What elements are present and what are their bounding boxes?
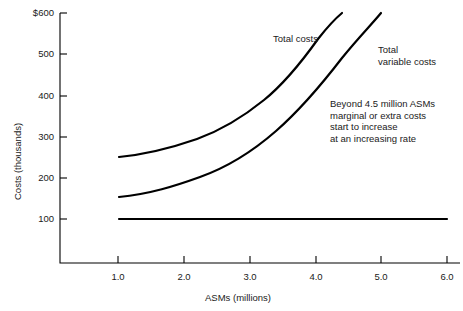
marginal-cost-note-line-1: Beyond 4.5 million ASMs	[330, 98, 435, 109]
marginal-cost-note: Beyond 4.5 million ASMs marginal or extr…	[330, 98, 435, 144]
series-label-total-variable-costs-line1: Total	[378, 44, 398, 55]
y-tick-label-600: $600	[12, 8, 54, 18]
x-tick-label-3: 3.0	[230, 272, 270, 282]
cost-behavior-chart: $600 500 400 300 200 100 1.0 2.0 3.0 4.0…	[0, 0, 463, 311]
y-tick-marks	[60, 13, 67, 219]
marginal-cost-note-line-3: start to increase	[330, 121, 398, 132]
x-tick-label-4: 4.0	[296, 272, 336, 282]
x-tick-label-5: 5.0	[361, 272, 401, 282]
y-tick-label-500: 500	[12, 49, 54, 59]
series-label-total-costs: Total costs	[273, 33, 318, 45]
series-label-total-variable-costs-line2: variable costs	[378, 56, 436, 67]
y-axis-title: Costs (thousands)	[12, 123, 23, 200]
y-tick-label-400: 400	[12, 91, 54, 101]
series-label-total-variable-costs: Total variable costs	[378, 44, 436, 67]
marginal-cost-note-line-2: marginal or extra costs	[330, 110, 426, 121]
x-tick-label-6: 6.0	[427, 272, 463, 282]
x-tick-label-1: 1.0	[98, 272, 138, 282]
x-tick-marks	[118, 256, 447, 263]
y-tick-label-100: 100	[12, 214, 54, 224]
x-tick-label-2: 2.0	[164, 272, 204, 282]
marginal-cost-note-line-4: at an increasing rate	[330, 133, 416, 144]
x-axis-title: ASMs (millions)	[205, 292, 271, 303]
